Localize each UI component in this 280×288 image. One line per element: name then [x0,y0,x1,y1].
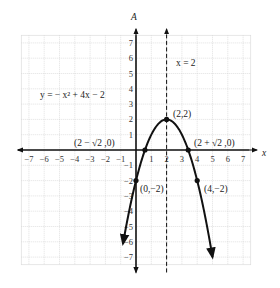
point-marker [133,178,138,183]
point-marker [186,147,191,152]
y-tick-label: 2 [129,114,133,124]
x-tick-label: 4 [195,154,200,164]
right-root-label: (2 + √2 ,0) [194,138,235,149]
x-tick-label: −6 [40,154,49,164]
point-marker [195,178,200,183]
annotations: A x y = − x² + 4x − 2 x = 2 (2,2) (2 − √… [40,12,267,195]
x-axis-label: x [261,148,267,158]
point-marker [164,117,169,122]
y-axis-label: A [130,12,137,22]
y-tick-label: 4 [129,84,134,94]
equation-label: y = − x² + 4x − 2 [40,90,105,100]
y-intercept-label: (0,−2) [140,184,164,195]
x-tick-label: 6 [226,154,230,164]
y-tick-label: 3 [129,99,133,109]
x-tick-label: −5 [55,154,64,164]
y-tick-label: −6 [124,237,133,247]
x-tick-label: −2 [101,154,110,164]
x-tick-label: −3 [86,154,95,164]
left-root-label: (2 − √2 ,0) [74,138,115,149]
x-tick-label: 2 [164,154,168,164]
vertex-label: (2,2) [173,109,191,120]
y-tick-label: 1 [129,130,133,140]
symmetry-label: x = 2 [176,58,196,68]
y-tick-label: 7 [129,38,133,48]
parabola-chart: −7−6−5−4−3−2−11234567−7−6−5−4−3−2−112345… [0,0,280,288]
x-tick-label: −7 [24,154,33,164]
x-tick-label: −4 [70,154,80,164]
mirror-point-label: (4,−2) [204,184,228,195]
point-marker [142,147,147,152]
y-tick-label: −2 [124,176,133,186]
x-tick-label: 1 [149,154,153,164]
y-tick-label: −7 [124,252,133,262]
x-tick-label: 3 [180,154,184,164]
axes [18,29,257,272]
y-tick-label: 5 [129,69,133,79]
x-tick-label: 7 [241,154,245,164]
y-tick-label: −1 [124,160,133,170]
y-tick-label: 6 [129,53,133,63]
x-tick-label: 5 [210,154,214,164]
